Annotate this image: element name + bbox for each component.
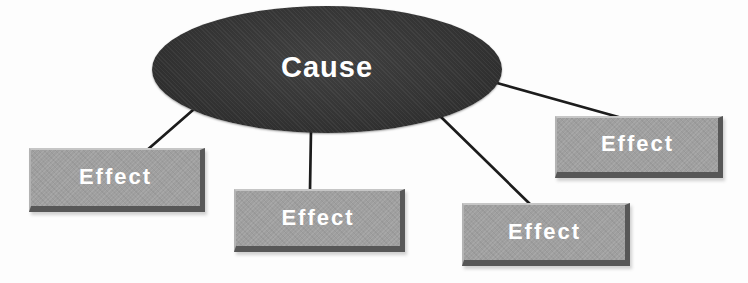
effect-node-2-label: Effect: [281, 205, 354, 231]
effect-node-4-label: Effect: [601, 131, 674, 157]
effect-node-1-label: Effect: [79, 164, 152, 190]
effect-node-3-label: Effect: [508, 219, 581, 245]
connector-line-cause-effect2: [310, 130, 311, 190]
connector-line-cause-effect1: [146, 110, 193, 151]
cause-node-label: Cause: [281, 51, 373, 84]
effect-node-1: Effect: [29, 148, 205, 212]
effect-node-2: Effect: [234, 189, 405, 252]
cause-effect-diagram: Cause Effect Effect Effect Effect: [0, 0, 748, 283]
connector-line-cause-effect4: [497, 83, 622, 118]
effect-node-3: Effect: [462, 203, 630, 266]
effect-node-4: Effect: [555, 116, 723, 178]
cause-node: Cause: [152, 6, 502, 133]
connector-line-cause-effect3: [441, 117, 532, 206]
